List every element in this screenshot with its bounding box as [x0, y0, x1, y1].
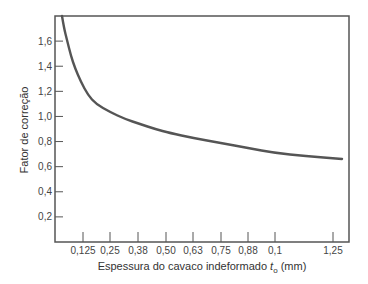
y-tick-label: 1,6	[38, 36, 52, 47]
x-tick-label: 0,1	[268, 245, 282, 256]
correction-factor-curve	[62, 16, 342, 159]
y-tick-label: 1,4	[38, 61, 52, 72]
x-axis-label: Espessura do cavaco indeformado to (mm)	[98, 260, 307, 275]
y-tick-label: 0,8	[38, 136, 52, 147]
plot-frame	[55, 16, 349, 242]
x-tick-label: 0,50	[156, 245, 176, 256]
y-tick-label: 0,6	[38, 161, 52, 172]
x-tick-label: 0,25	[100, 245, 120, 256]
y-axis-ticks: 0,20,40,60,81,01,21,41,6	[38, 36, 63, 223]
y-tick-label: 0,4	[38, 186, 52, 197]
x-tick-label: 0,125	[70, 245, 95, 256]
chart: 0,20,40,60,81,01,21,41,6 0,1250,250,380,…	[0, 0, 368, 284]
y-tick-label: 1,2	[38, 86, 52, 97]
x-axis-label-text: Espessura do cavaco indeformado	[98, 260, 267, 272]
x-tick-label: 0,63	[183, 245, 203, 256]
x-tick-label: 1,25	[323, 245, 343, 256]
x-axis-label-unit: (mm)	[281, 260, 307, 272]
y-axis-label: Fator de correção	[18, 87, 30, 174]
x-tick-label: 0,88	[238, 245, 258, 256]
x-axis-ticks: 0,1250,250,380,500,630,750,880,11,25	[70, 232, 343, 256]
y-tick-label: 0,2	[38, 211, 52, 222]
x-tick-label: 0,38	[128, 245, 148, 256]
x-tick-label: 0,75	[211, 245, 231, 256]
y-tick-label: 1,0	[38, 111, 52, 122]
